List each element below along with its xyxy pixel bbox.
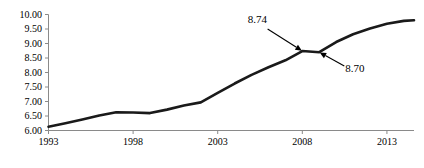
x-tick-label: 2008 (292, 136, 312, 147)
y-tick-label: 6.00 (25, 125, 43, 136)
annotation-arrow-head (295, 45, 302, 51)
y-tick-label: 8.00 (25, 67, 43, 78)
y-tick-label: 7.50 (25, 81, 43, 92)
line-chart: 10.009.509.008.508.007.507.006.506.00 19… (0, 0, 424, 168)
annotations: 8.748.70 (248, 13, 365, 74)
y-tick-label: 7.00 (25, 96, 43, 107)
y-tick-label: 10.00 (20, 9, 43, 20)
y-tick-label: 6.50 (25, 110, 43, 121)
y-axis: 10.009.509.008.508.007.507.006.506.00 (20, 9, 49, 136)
y-tick-label: 9.50 (25, 23, 43, 34)
x-tick-label: 1998 (123, 136, 143, 147)
y-tick-label: 8.50 (25, 52, 43, 63)
x-tick-label: 2013 (377, 136, 397, 147)
x-axis: 19931998200320082013 (39, 131, 415, 148)
annotation-label: 8.70 (345, 62, 365, 74)
chart-canvas: 10.009.509.008.508.007.507.006.506.00 19… (0, 0, 424, 168)
annotation-label: 8.74 (248, 13, 268, 25)
annotation-leader-line (268, 29, 297, 47)
y-tick-label: 9.00 (25, 38, 43, 49)
x-tick-label: 2003 (208, 136, 228, 147)
x-tick-label: 1993 (39, 136, 59, 147)
annotation-leader-line (325, 56, 344, 67)
